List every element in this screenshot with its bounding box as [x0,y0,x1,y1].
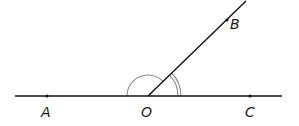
point-A [46,95,49,98]
label-C: C [245,104,255,120]
label-A: A [40,104,51,120]
point-B [226,19,229,22]
angle-diagram: A O C B [0,0,299,126]
label-O: O [141,104,152,120]
angle-AOB-arc [127,75,163,96]
point-C [249,95,252,98]
angle-BOC-arc-inner [170,75,178,96]
label-B: B [230,16,240,32]
